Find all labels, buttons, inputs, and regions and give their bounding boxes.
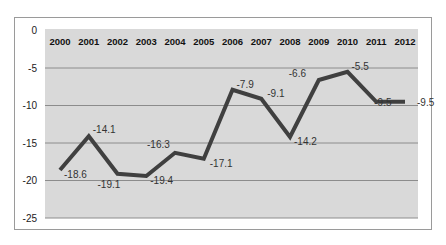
x-tick-label: 2012 bbox=[394, 36, 415, 47]
x-tick-label: 2000 bbox=[49, 36, 70, 47]
data-label: -5.5 bbox=[352, 61, 370, 72]
data-label: -9.1 bbox=[267, 88, 285, 99]
data-label: -7.9 bbox=[237, 79, 255, 90]
data-label: -14.2 bbox=[294, 136, 317, 147]
x-tick-label: 2002 bbox=[107, 36, 128, 47]
y-axis: 0-5-10-15-20-25 bbox=[23, 25, 38, 224]
y-tick-label: -20 bbox=[23, 175, 38, 186]
y-tick-label: -5 bbox=[28, 63, 37, 74]
y-tick-label: 0 bbox=[31, 25, 37, 36]
data-label: -16.3 bbox=[147, 139, 170, 150]
x-tick-label: 2009 bbox=[308, 36, 329, 47]
x-tick-label: 2001 bbox=[78, 36, 100, 47]
data-label: -9.5 bbox=[374, 97, 392, 108]
x-tick-label: 2007 bbox=[251, 36, 272, 47]
x-tick-label: 2004 bbox=[164, 36, 186, 47]
x-tick-label: 2008 bbox=[279, 36, 300, 47]
data-label: -19.4 bbox=[150, 175, 173, 186]
line-chart: 0-5-10-15-20-25 200020012002200320042005… bbox=[0, 0, 446, 245]
data-label: -14.1 bbox=[93, 124, 116, 135]
x-tick-label: 2010 bbox=[337, 36, 358, 47]
y-tick-label: -10 bbox=[23, 100, 38, 111]
data-label: -17.1 bbox=[210, 158, 233, 169]
data-label: -9.5 bbox=[417, 97, 435, 108]
data-label: -19.1 bbox=[98, 179, 121, 190]
x-tick-label: 2006 bbox=[222, 36, 243, 47]
y-tick-label: -25 bbox=[23, 213, 38, 224]
x-tick-label: 2003 bbox=[136, 36, 157, 47]
data-label: -6.6 bbox=[289, 68, 307, 79]
x-tick-label: 2011 bbox=[366, 36, 387, 47]
x-tick-label: 2005 bbox=[193, 36, 215, 47]
data-label: -18.6 bbox=[64, 169, 87, 180]
y-tick-label: -15 bbox=[23, 138, 38, 149]
